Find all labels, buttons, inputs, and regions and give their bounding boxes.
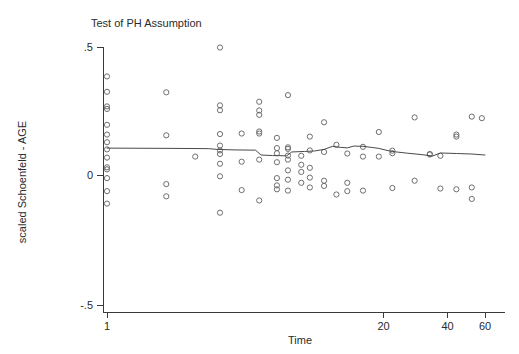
- data-point: [479, 116, 484, 121]
- data-point: [274, 151, 279, 156]
- data-point: [104, 132, 109, 137]
- data-point: [193, 154, 198, 159]
- data-point: [217, 210, 222, 215]
- data-point: [239, 187, 244, 192]
- data-point: [164, 194, 169, 199]
- data-point: [360, 154, 365, 159]
- data-point: [104, 89, 109, 94]
- smoothed-trend-path: [107, 146, 485, 156]
- data-point: [217, 174, 222, 179]
- y-axis-title: scaled Schoenfeld - AGE: [16, 121, 28, 243]
- y-tick-label: 0: [87, 169, 93, 181]
- x-tick-label: 40: [441, 320, 453, 332]
- data-point: [217, 45, 222, 50]
- data-point: [164, 90, 169, 95]
- x-tick-label: 20: [377, 320, 389, 332]
- data-point: [257, 99, 262, 104]
- x-tick-label: 1: [104, 320, 110, 332]
- data-point: [307, 175, 312, 180]
- y-tick-label: .5: [84, 41, 93, 53]
- data-point: [104, 74, 109, 79]
- data-point: [285, 93, 290, 98]
- data-point: [299, 180, 304, 185]
- data-point: [345, 180, 350, 185]
- axis-labels-group: -.50.51204060Test of PH AssumptionTimesc…: [16, 17, 491, 346]
- data-point: [285, 188, 290, 193]
- data-point: [360, 188, 365, 193]
- data-point: [307, 165, 312, 170]
- data-point: [104, 155, 109, 160]
- data-point: [412, 178, 417, 183]
- data-point: [104, 189, 109, 194]
- data-point: [321, 183, 326, 188]
- data-point: [376, 154, 381, 159]
- data-point: [469, 114, 474, 119]
- data-point: [299, 169, 304, 174]
- data-point: [285, 177, 290, 182]
- data-point: [307, 185, 312, 190]
- data-point: [104, 176, 109, 181]
- scatter-plot: -.50.51204060Test of PH AssumptionTimesc…: [0, 0, 519, 354]
- data-point: [257, 157, 262, 162]
- data-point: [239, 159, 244, 164]
- data-point: [454, 187, 459, 192]
- data-point: [164, 182, 169, 187]
- data-point: [274, 135, 279, 140]
- data-point: [274, 160, 279, 165]
- data-point: [274, 187, 279, 192]
- data-point: [412, 115, 417, 120]
- data-point: [285, 168, 290, 173]
- data-point: [307, 148, 312, 153]
- data-point: [104, 147, 109, 152]
- data-point: [376, 129, 381, 134]
- data-point: [104, 122, 109, 127]
- data-point: [345, 151, 350, 156]
- data-point: [239, 131, 244, 136]
- data-point: [307, 134, 312, 139]
- data-point: [217, 131, 222, 136]
- plot-title: Test of PH Assumption: [91, 17, 202, 29]
- data-point: [104, 140, 109, 145]
- data-point: [104, 201, 109, 206]
- data-point: [164, 133, 169, 138]
- data-point: [299, 162, 304, 167]
- chart-page: -.50.51204060Test of PH AssumptionTimesc…: [0, 0, 519, 354]
- data-point: [321, 120, 326, 125]
- data-point: [390, 185, 395, 190]
- data-point: [438, 186, 443, 191]
- data-point: [321, 178, 326, 183]
- axes-group: [97, 47, 505, 318]
- data-point: [217, 161, 222, 166]
- data-point: [345, 189, 350, 194]
- data-point: [469, 196, 474, 201]
- data-points-group: [104, 45, 484, 215]
- x-axis-title: Time: [288, 334, 312, 346]
- smoothed-trend-line: [107, 146, 485, 156]
- data-point: [334, 192, 339, 197]
- data-point: [217, 151, 222, 156]
- data-point: [274, 176, 279, 181]
- data-point: [257, 198, 262, 203]
- x-tick-label: 60: [479, 320, 491, 332]
- data-point: [299, 153, 304, 158]
- data-point: [274, 146, 279, 151]
- data-point: [469, 185, 474, 190]
- y-tick-label: -.5: [80, 299, 93, 311]
